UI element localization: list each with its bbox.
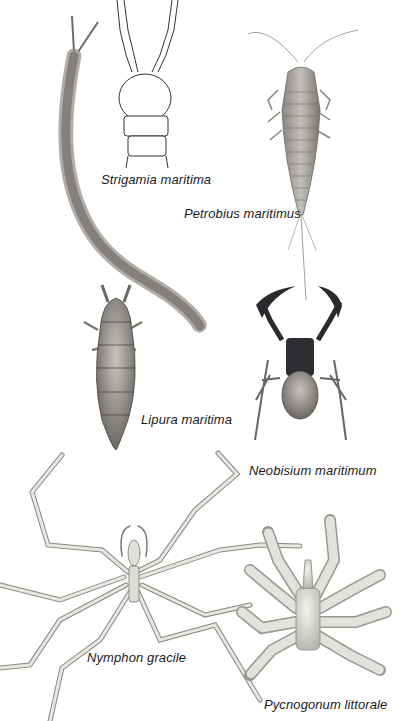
petrobius-bristletail-drawing	[248, 30, 358, 300]
label-lipura-maritima: Lipura maritima	[141, 412, 232, 427]
label-petrobius-maritimus: Petrobius maritimus	[184, 206, 301, 221]
specimen-drawings	[0, 0, 399, 721]
label-pycnogonum-littorale: Pycnogonum littorale	[264, 697, 387, 712]
neobisium-pseudoscorpion-drawing	[255, 286, 346, 440]
label-strigamia-maritima: Strigamia maritima	[101, 172, 211, 187]
illustration-plate: Strigamia maritima Petrobius maritimus L…	[0, 0, 399, 721]
label-nymphon-gracile: Nymphon gracile	[87, 650, 186, 665]
strigamia-centipede-drawing	[66, 16, 200, 326]
label-neobisium-maritimum: Neobisium maritimum	[249, 463, 377, 478]
strigamia-head-detail-drawing	[117, 0, 178, 168]
nymphon-sea-spider-drawing	[0, 453, 300, 721]
lipura-springtail-drawing	[84, 285, 142, 450]
